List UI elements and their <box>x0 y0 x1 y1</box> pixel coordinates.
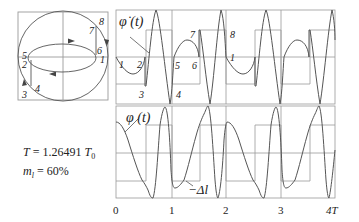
phidot-panel: φ̇ (t) 1 2 3 4 5 6 7 8 1 <box>116 10 335 104</box>
period-param: T = 1.26491 T0 <box>23 145 95 161</box>
tick-4T: 4T <box>326 204 339 216</box>
figure: 1 2 3 4 5 6 7 8 φ̇ (t) 1 2 3 4 5 6 7 8 <box>0 0 359 222</box>
tick-2: 2 <box>223 204 229 216</box>
svg-text:1: 1 <box>230 52 235 63</box>
svg-text:3: 3 <box>138 89 144 100</box>
pt-5: 5 <box>22 50 27 61</box>
phase-portrait <box>18 11 108 101</box>
arrow-left-icon <box>49 72 56 77</box>
tick-3: 3 <box>278 204 284 216</box>
pt-6: 6 <box>97 45 102 56</box>
arrow-right-icon <box>68 39 75 44</box>
svg-text:5: 5 <box>175 60 180 71</box>
tick-1: 1 <box>169 204 175 216</box>
phidot-label: φ̇ (t) <box>119 14 144 30</box>
svg-text:7: 7 <box>190 29 196 40</box>
x-axis-ticks: 0 1 2 3 4T <box>113 204 339 216</box>
tick-0: 0 <box>113 204 119 216</box>
svg-text:8: 8 <box>230 29 235 40</box>
pt-3: 3 <box>21 89 27 100</box>
phi-panel: φ (t) −Δl <box>116 106 335 198</box>
pt-4: 4 <box>35 83 40 94</box>
svg-text:1: 1 <box>119 59 124 70</box>
svg-text:2: 2 <box>137 59 142 70</box>
svg-text:4: 4 <box>176 89 181 100</box>
svg-text:6: 6 <box>192 60 197 71</box>
inner-ellipse <box>28 44 96 72</box>
figure-svg: 1 2 3 4 5 6 7 8 φ̇ (t) 1 2 3 4 5 6 7 8 <box>0 0 359 222</box>
pt-7: 7 <box>89 25 95 36</box>
delta-label: −Δl <box>188 182 208 197</box>
pt-8: 8 <box>99 16 104 27</box>
phi-label: φ (t) <box>126 110 151 126</box>
modulation-param: ml = 60% <box>23 164 69 180</box>
